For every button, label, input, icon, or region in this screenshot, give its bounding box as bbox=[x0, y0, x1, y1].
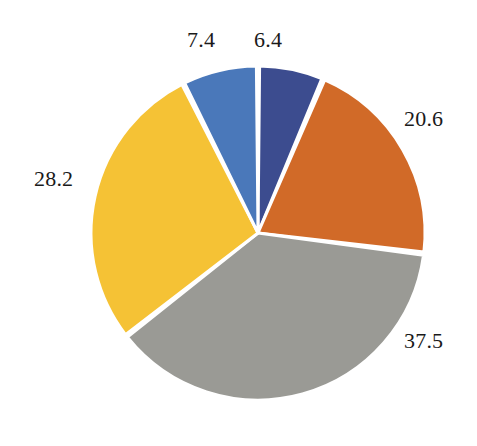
pie-slice-label-3: 28.2 bbox=[34, 168, 73, 190]
pie-slice-group bbox=[91, 66, 425, 400]
pie-chart-svg bbox=[0, 0, 477, 446]
pie-slice-label-4: 7.4 bbox=[187, 29, 215, 51]
pie-slice-label-1: 20.6 bbox=[404, 108, 443, 130]
pie-slice-label-2: 37.5 bbox=[404, 330, 443, 352]
pie-slice-label-0: 6.4 bbox=[254, 29, 282, 51]
pie-chart-figure: 6.4 20.6 37.5 28.2 7.4 bbox=[0, 0, 477, 446]
